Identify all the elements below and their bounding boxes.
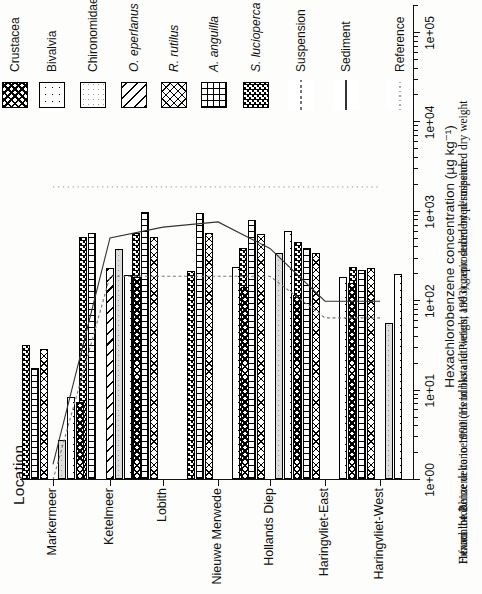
legend-label-sed: Sediment	[333, 21, 359, 72]
biv-pattern-swatch	[39, 82, 65, 108]
legend-item-susp: Suspension	[288, 0, 314, 108]
ref-line-swatch	[387, 80, 413, 110]
sed-line-sample	[345, 80, 347, 110]
legend-label-biv: Bivalvia	[39, 31, 65, 72]
legend-item-aang: A. anguilla	[201, 0, 227, 108]
legend: CrustaceaBivalviaChironomidaeO. eperlanu…	[0, 0, 420, 108]
location-tick	[270, 480, 271, 486]
rotated-figure: Location 1e+001e+011e+021e+031e+041e+05 …	[0, 0, 482, 594]
legend-label-rrut: R. rutilus	[161, 25, 187, 72]
legend-item-oeper: O. eperlanus	[121, 0, 147, 108]
legend-item-sed: Sediment	[333, 0, 359, 108]
oeper-pattern-swatch	[121, 82, 147, 108]
location-tick	[218, 480, 219, 486]
location-tick	[53, 480, 54, 486]
sluc-pattern-swatch	[243, 82, 269, 108]
aang-pattern-swatch	[201, 82, 227, 108]
location-tick	[110, 480, 111, 486]
figure-page: Location 1e+001e+011e+021e+031e+041e+05 …	[0, 0, 482, 594]
legend-item-sluc: S. lucioperca	[243, 0, 269, 108]
ref-line-sample	[399, 80, 401, 110]
location-tick	[163, 480, 164, 486]
crust-pattern-swatch	[2, 82, 28, 108]
x-axis-title: Hexachlorobenzene concentration (µg kg⁻¹…	[441, 33, 457, 480]
caption-line-2: from the Rhine delta in 1990 (Hendriks a…	[456, 161, 470, 554]
legend-item-ref: Reference	[387, 0, 413, 108]
legend-item-biv: Bivalvia	[39, 0, 65, 108]
location-tick	[325, 480, 326, 486]
location-label-markermeer: Markermeer	[45, 488, 59, 594]
legend-item-chir: Chironomidae	[80, 0, 106, 108]
chir-pattern-swatch	[80, 82, 106, 108]
legend-label-oeper: O. eperlanus	[121, 3, 147, 72]
location-label-nieuwe-merwede: Nieuwe Merwede	[210, 488, 224, 594]
legend-label-sluc: S. lucioperca	[243, 3, 269, 72]
legend-label-chir: Chironomidae	[80, 0, 106, 72]
location-label-haringvliet-east: Haringvliet-East	[317, 488, 331, 594]
legend-label-susp: Suspension	[288, 9, 314, 72]
legend-label-aang: A. anguilla	[201, 16, 227, 72]
legend-label-crust: Crustacea	[2, 17, 28, 72]
susp-line-swatch	[288, 80, 314, 110]
location-label-ketelmeer: Ketelmeer	[102, 488, 116, 594]
sed-line-swatch	[333, 80, 359, 110]
legend-item-crust: Crustacea	[2, 0, 28, 108]
susp-line-sample	[300, 80, 302, 110]
legend-item-rrut: R. rutilus	[161, 0, 187, 108]
location-tick	[380, 480, 381, 486]
rrut-pattern-swatch	[161, 82, 187, 108]
location-label-lobith: Lobith	[155, 488, 169, 594]
location-label-haringvliet-west: Haringvliet-West	[372, 488, 386, 594]
legend-label-ref: Reference	[387, 17, 413, 72]
location-label-hollands-diep: Hollands Diep	[262, 488, 276, 594]
